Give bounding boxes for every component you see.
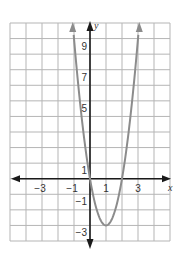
y-tick-label: 9	[81, 41, 87, 52]
x-tick-label: 1	[103, 183, 109, 194]
y-axis-label: y	[93, 20, 99, 31]
y-tick-label: 1	[81, 165, 87, 176]
x-axis-left-arrow-icon	[11, 175, 20, 182]
x-tick-label: 3	[135, 183, 141, 194]
x-axis-label: x	[167, 182, 173, 193]
x-tick-label: −1	[66, 183, 78, 194]
y-tick-label: −1	[76, 196, 88, 207]
x-tick-label: −3	[34, 183, 46, 194]
parabola-graph: −3−1139751−1−3xy	[0, 0, 178, 262]
tick-labels: −3−1139751−1−3xy	[34, 20, 173, 238]
axes	[11, 21, 171, 249]
y-tick-label: 5	[81, 103, 87, 114]
y-axis-down-arrow-icon	[87, 239, 94, 249]
y-tick-label: 7	[81, 72, 87, 83]
y-tick-label: −3	[76, 227, 88, 238]
